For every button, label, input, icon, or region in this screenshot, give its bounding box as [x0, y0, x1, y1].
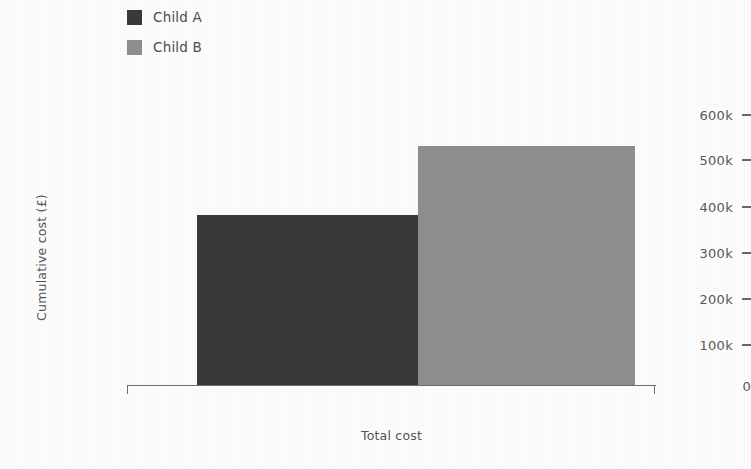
- x-axis-cap-right-icon: [654, 385, 655, 394]
- bar-child-a[interactable]: [197, 215, 418, 385]
- x-axis-cap-left-icon: [127, 385, 128, 394]
- bar-child-b[interactable]: [418, 146, 635, 385]
- plot-area: Cumulative cost (£) 600k 500k 400k 300k …: [0, 0, 751, 469]
- x-axis-line: [127, 385, 656, 386]
- bar-chart: Child A Child B Cumulative cost (£) 600k…: [0, 0, 751, 469]
- x-axis-title: Total cost: [127, 428, 656, 443]
- bars-layer: [0, 0, 751, 469]
